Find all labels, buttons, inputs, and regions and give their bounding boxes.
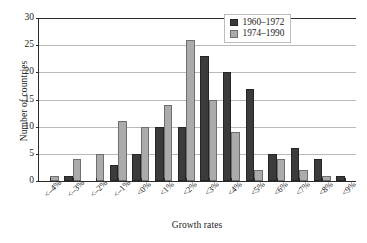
bar [209,100,218,182]
x-axis-tick-mark [277,178,278,182]
x-axis-title: Growth rates [38,220,356,230]
legend-item: 1960–1972 [230,18,284,27]
bar-group [197,18,220,181]
x-axis-tick-mark [186,178,187,182]
y-axis-tick-label: 20 [25,68,35,78]
legend-color-swatch [230,30,238,38]
bar [246,89,255,181]
x-axis-tick-mark [299,178,300,182]
bar-group [62,18,85,181]
x-axis-tick-label: <2% [180,179,198,197]
x-axis-tick-cell: <2% [174,182,197,216]
x-axis-tick-labels: <–4%<–3%<–2%<–1%<0%<1%<2%<3%<4%<5%<6%<7%… [38,182,356,216]
bar [118,121,127,181]
bar [178,127,187,181]
bar [277,159,286,181]
x-axis-tick-cell: <5% [242,182,265,216]
bar-chart-figure: Number of countries 051015202530 <–4%<–3… [0,0,367,243]
x-axis-tick-mark [322,178,323,182]
y-axis-tick-label: 10 [25,122,35,132]
x-axis-tick-cell: <0% [129,182,152,216]
x-axis-tick-label: <1% [157,179,175,197]
x-axis-tick-mark [118,178,119,182]
legend-color-swatch [230,19,238,27]
x-axis-tick-mark [141,178,142,182]
bar [223,72,232,181]
bar [336,176,345,181]
x-axis-tick-cell: <6% [265,182,288,216]
x-axis-tick-cell: <3% [197,182,220,216]
legend: 1960–19721974–1990 [224,14,291,43]
x-axis-tick-mark [73,178,74,182]
plot-area: 051015202530 [38,18,356,182]
bar-group [152,18,175,181]
x-axis-tick-label: <9% [339,179,357,197]
bar [141,127,150,181]
x-axis-tick-mark [209,178,210,182]
bar [96,154,105,181]
bar [164,105,173,181]
x-axis-tick-label: <4% [225,179,243,197]
x-axis-tick-mark [96,178,97,182]
bar-group [175,18,198,181]
x-axis-tick-label: <7% [294,179,312,197]
bar-group [288,18,311,181]
x-axis-tick-mark [231,178,232,182]
bar [132,154,141,181]
y-axis-tick-label: 15 [25,95,35,105]
x-axis-tick-cell: <9% [333,182,356,216]
x-axis-tick-cell: <–1% [106,182,129,216]
x-axis-tick-cell: <–2% [83,182,106,216]
bar [64,176,73,181]
bar-group [84,18,107,181]
bar-group [130,18,153,181]
bar [186,40,195,181]
y-axis-tick-label: 5 [29,149,34,159]
bar [314,159,323,181]
bar [200,56,209,181]
x-axis-tick-mark [164,178,165,182]
y-axis-tick-label: 0 [29,176,34,186]
x-axis-tick-mark [50,178,51,182]
bar-group [333,18,356,181]
bar [268,154,277,181]
x-axis-tick-mark [254,178,255,182]
bar-group [107,18,130,181]
bar [73,159,82,181]
x-axis-tick-cell: <–4% [38,182,61,216]
x-axis-tick-cell: <1% [152,182,175,216]
legend-item: 1974–1990 [230,29,284,38]
bar [231,132,240,181]
x-axis-tick-cell: <4% [220,182,243,216]
x-axis-tick-label: <0% [135,179,153,197]
bar [155,127,164,181]
bar [291,148,300,181]
x-axis-tick-label: <6% [271,179,289,197]
bar-groups [39,18,356,181]
x-axis-tick-cell: <–3% [61,182,84,216]
legend-label: 1974–1990 [243,29,285,38]
y-axis-tick-label: 30 [25,13,35,23]
x-axis-tick-cell: <7% [288,182,311,216]
legend-label: 1960–1972 [243,18,285,27]
bar [110,165,119,181]
bar-group [39,18,62,181]
bar-group [311,18,334,181]
x-axis-tick-label: <8% [316,179,334,197]
x-axis-tick-label: <5% [248,179,266,197]
x-axis-tick-label: <3% [203,179,221,197]
y-axis-tick-label: 25 [25,40,35,50]
x-axis-tick-cell: <8% [311,182,334,216]
x-axis-tick-mark [345,178,346,182]
